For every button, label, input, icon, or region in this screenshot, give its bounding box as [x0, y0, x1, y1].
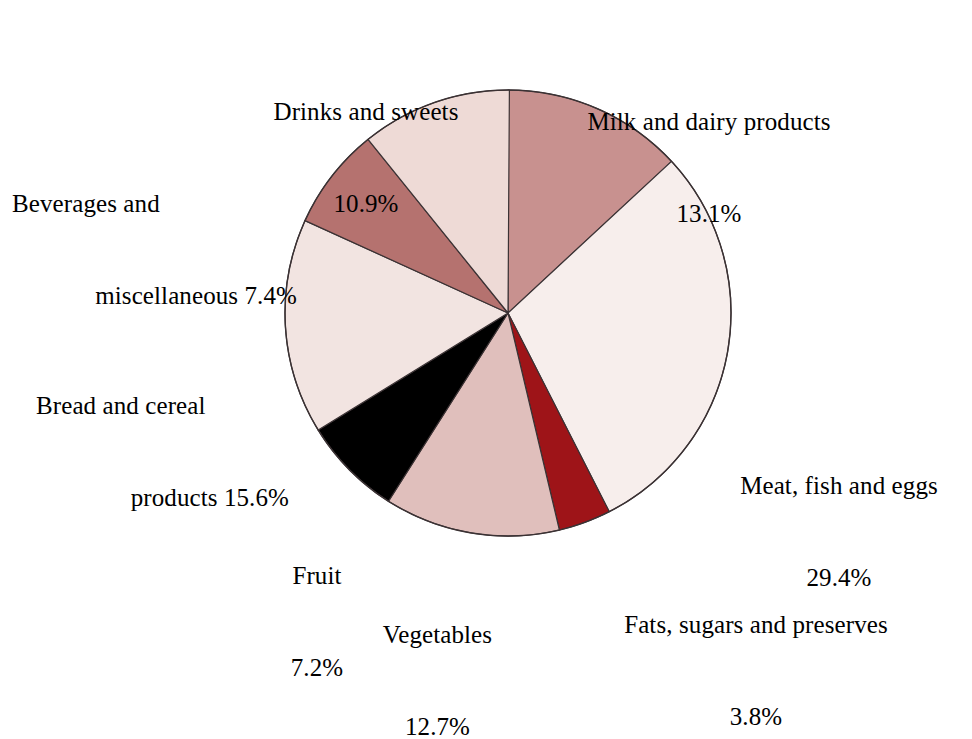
pie-label-vegetables-line2: 12.7%	[345, 712, 530, 739]
pie-label-bread-and-cereal: Bread and cereal products 15.6%	[12, 330, 289, 574]
pie-label-bread-and-cereal-line2: products 15.6%	[12, 483, 289, 514]
pie-label-milk-and-dairy: Milk and dairy products 13.1%	[559, 46, 859, 290]
pie-label-drinks-and-sweets-line1: Drinks and sweets	[236, 97, 496, 128]
pie-label-vegetables: Vegetables 12.7%	[345, 559, 530, 739]
pie-label-fats-sugars-and-preserves: Fats, sugars and preserves 3.8%	[586, 549, 926, 739]
pie-label-milk-and-dairy-line2: 13.1%	[559, 199, 859, 230]
pie-label-milk-and-dairy-line1: Milk and dairy products	[559, 107, 859, 138]
pie-label-meat-fish-and-eggs-line1: Meat, fish and eggs	[714, 471, 964, 502]
pie-label-fats-sugars-and-preserves-line1: Fats, sugars and preserves	[586, 610, 926, 641]
pie-label-vegetables-line1: Vegetables	[345, 620, 530, 651]
pie-label-fats-sugars-and-preserves-line2: 3.8%	[586, 702, 926, 733]
pie-label-bread-and-cereal-line1: Bread and cereal	[12, 391, 289, 422]
pie-label-beverages-and-miscellaneous-line2: miscellaneous 7.4%	[12, 281, 297, 312]
pie-label-beverages-and-miscellaneous-line1: Beverages and	[12, 189, 297, 220]
